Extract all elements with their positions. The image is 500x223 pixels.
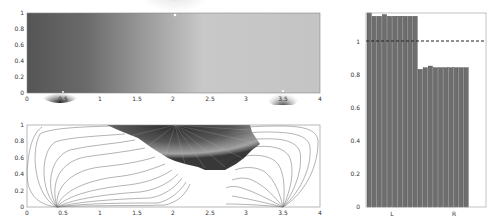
x-tick-R: R	[446, 210, 462, 217]
bar	[428, 66, 432, 207]
bar	[418, 69, 422, 207]
heatmap-plot	[0, 0, 330, 105]
y-tick: 1	[346, 38, 360, 45]
x-tick: 2	[165, 95, 181, 102]
y-tick: 0.8	[346, 71, 360, 78]
bar	[449, 68, 453, 207]
bar-chart-panel: 1 0.8 0.6 0.4 0.2 0 L R	[340, 0, 500, 223]
x-tick: 0.5	[55, 95, 71, 102]
bar	[444, 68, 448, 207]
streamline-panel: 1 0.8 0.6 0.4 0.2 0 0 0.5 1 1.5 2 2.5 3 …	[0, 112, 330, 223]
y-tick: 0.6	[10, 154, 24, 161]
bar	[372, 16, 376, 207]
x-tick: 4	[312, 95, 328, 102]
x-tick: 1	[92, 209, 108, 216]
x-tick: 3	[238, 95, 254, 102]
y-tick: 0.8	[10, 137, 24, 144]
y-tick: 0.4	[10, 170, 24, 177]
x-tick: 4	[312, 209, 328, 216]
x-tick: 3	[238, 209, 254, 216]
bar	[382, 15, 386, 207]
y-tick: 0.4	[346, 137, 360, 144]
x-tick: 0	[19, 209, 35, 216]
bar-chart-plot	[340, 0, 500, 223]
x-tick: 1	[92, 95, 108, 102]
bar	[423, 68, 427, 207]
x-tick: 3.5	[275, 95, 291, 102]
bar	[433, 68, 437, 207]
bar	[454, 68, 458, 207]
bar	[387, 16, 391, 207]
y-tick: 0.2	[10, 73, 24, 80]
y-tick: 0.6	[346, 104, 360, 111]
bar	[398, 16, 402, 207]
bar	[413, 16, 417, 207]
x-tick: 3.5	[275, 209, 291, 216]
y-tick: 1	[10, 121, 24, 128]
y-tick: 1	[10, 9, 24, 16]
bar	[403, 16, 407, 207]
x-tick: 2.5	[202, 95, 218, 102]
streamline-plot	[0, 112, 330, 223]
y-tick: 0.2	[346, 170, 360, 177]
x-tick-L: L	[384, 210, 400, 217]
bar	[459, 68, 463, 207]
x-tick: 1.5	[129, 95, 145, 102]
bar-series	[367, 13, 468, 207]
y-tick: 0.2	[10, 187, 24, 194]
x-tick: 2	[165, 209, 181, 216]
y-tick: 0.4	[10, 57, 24, 64]
bar	[377, 16, 381, 207]
bar	[393, 16, 397, 207]
bar	[464, 68, 468, 207]
y-tick: 0	[346, 203, 360, 210]
x-tick: 0.5	[55, 209, 71, 216]
heatmap-panel: 1 0.8 0.6 0.4 0.2 0 0 0.5 1 1.5 2 2.5 3 …	[0, 0, 330, 105]
x-tick: 1.5	[129, 209, 145, 216]
y-tick: 0.8	[10, 25, 24, 32]
bar	[438, 68, 442, 207]
x-tick: 0	[19, 95, 35, 102]
y-tick: 0.6	[10, 41, 24, 48]
bar	[367, 13, 371, 207]
bar	[408, 16, 412, 207]
x-tick: 2.5	[202, 209, 218, 216]
